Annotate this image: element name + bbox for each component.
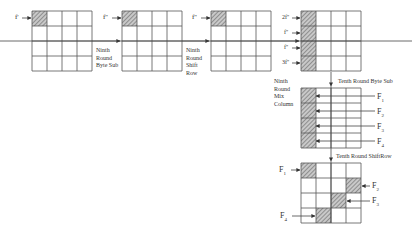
shaded-byte <box>301 118 316 133</box>
step-label-tenth-shift-row: Tenth Round ShiftRow <box>336 153 392 161</box>
input-label-g4-r3: f'' <box>284 44 288 52</box>
shaded-byte <box>301 88 316 103</box>
input-label-g3: f'' <box>192 14 197 22</box>
fault-label-g6-3: F3 <box>372 196 379 207</box>
aes-fault-propagation-diagram <box>0 0 412 237</box>
shaded-byte <box>301 133 316 148</box>
fault-label-g5-3: F3 <box>377 122 384 133</box>
input-label-g1: f' <box>15 14 19 22</box>
shaded-byte <box>301 56 316 71</box>
shaded-byte <box>211 11 226 26</box>
step-label-ninth-mix-column: Ninth Round Mix Column <box>274 78 293 108</box>
shaded-byte <box>301 41 316 56</box>
shaded-byte <box>32 11 47 26</box>
fault-label-g5-1: F1 <box>377 92 384 103</box>
step-label-ninth-byte-sub: Ninth Round Byte Sub <box>96 47 118 70</box>
shaded-byte <box>301 103 316 118</box>
shaded-byte <box>346 178 361 193</box>
step-label-tenth-byte-sub: Tenth Round Byte Sub <box>338 78 393 86</box>
shaded-byte <box>331 193 346 208</box>
fault-label-g5-2: F2 <box>377 107 384 118</box>
fault-label-g6-1: F1 <box>279 165 286 176</box>
input-label-g2: f'' <box>103 14 108 22</box>
shaded-byte <box>301 163 316 178</box>
shaded-byte <box>316 208 331 223</box>
shaded-byte <box>301 26 316 41</box>
shaded-byte <box>122 11 137 26</box>
state-grids <box>32 11 361 223</box>
step-label-ninth-shift-row: Ninth Round Shift Row <box>186 47 202 77</box>
input-label-g4-r4: 3f'' <box>282 59 289 67</box>
fault-label-g6-2: F2 <box>372 181 379 192</box>
input-label-g4-r2: f'' <box>284 29 288 37</box>
input-label-g4-r1: 2f'' <box>282 14 289 22</box>
fault-label-g6-4: F4 <box>280 211 287 222</box>
shaded-byte <box>301 11 316 26</box>
fault-label-g5-4: F4 <box>377 137 384 148</box>
